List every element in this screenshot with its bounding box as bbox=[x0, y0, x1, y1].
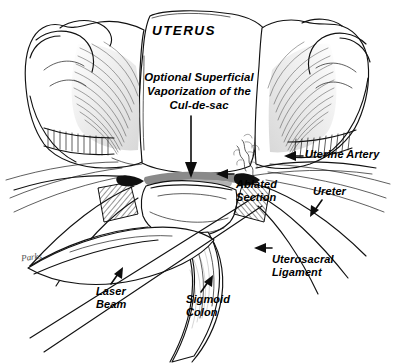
label-sigmoid-colon: Sigmoid Colon bbox=[186, 293, 230, 318]
uterosacral-ligament-arrow bbox=[254, 243, 272, 253]
vaporization-caption: Optional Superficial Vaporization of the… bbox=[123, 71, 275, 113]
label-laser-beam: Laser Beam bbox=[96, 285, 126, 310]
page-title: UTERUS bbox=[152, 24, 216, 38]
label-uterosacral-ligament: Uterosacral Ligament bbox=[272, 253, 334, 278]
anatomical-illustration: UTERUS Optional Superficial Vaporization… bbox=[0, 0, 397, 364]
label-ablated-section: Ablated Section bbox=[236, 178, 277, 203]
label-uterine-artery: Uterine Artery bbox=[305, 149, 379, 160]
label-ureter: Ureter bbox=[313, 186, 346, 197]
